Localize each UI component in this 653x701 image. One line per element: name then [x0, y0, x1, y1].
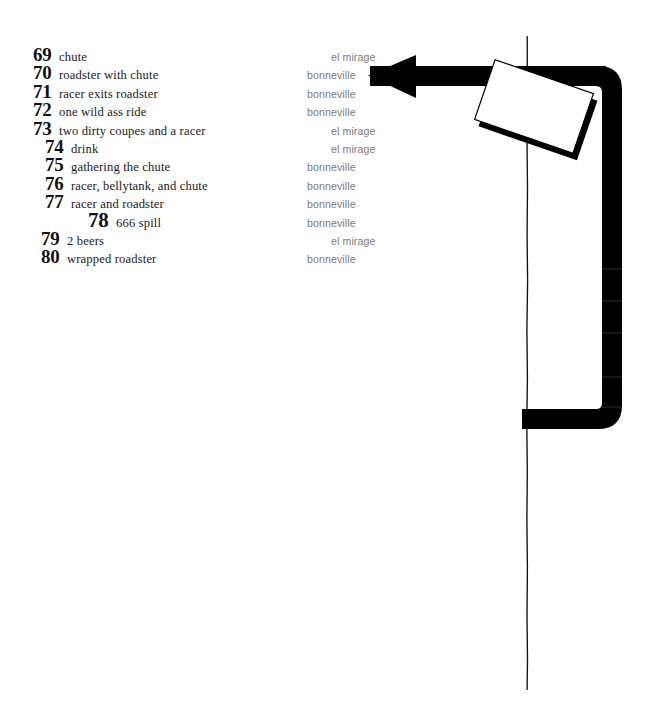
- entry-number: 76: [45, 174, 63, 193]
- entry-title: racer, bellytank, and chute: [71, 180, 208, 193]
- entry-number: 80: [41, 247, 59, 266]
- entry-number: 72: [33, 100, 51, 119]
- entry-title: wrapped roadster: [67, 253, 156, 266]
- entry-number: 71: [33, 82, 51, 101]
- left-arrow-head: [368, 55, 416, 98]
- entry-title: racer and roadster: [71, 198, 164, 211]
- entry-number: 74: [45, 137, 63, 156]
- entry-title: racer exits roadster: [59, 88, 158, 101]
- entry-number: 69: [33, 45, 51, 64]
- artwork-graphic: [340, 20, 653, 701]
- entry-title: 2 beers: [67, 235, 104, 248]
- entry-title: drink: [71, 143, 98, 156]
- entry-title: gathering the chute: [71, 161, 170, 174]
- entry-number: 78: [88, 210, 108, 231]
- entry-number: 75: [45, 155, 63, 174]
- entry-number: 77: [45, 192, 63, 211]
- entry-title: two dirty coupes and a racer: [59, 125, 206, 138]
- entry-number: 70: [33, 63, 51, 82]
- entry-title: roadster with chute: [59, 69, 158, 82]
- entry-number: 79: [41, 229, 59, 248]
- entry-title: one wild ass ride: [59, 106, 147, 119]
- entry-title: 666 spill: [116, 217, 161, 230]
- entry-number: 73: [33, 119, 51, 138]
- entry-title: chute: [59, 51, 87, 64]
